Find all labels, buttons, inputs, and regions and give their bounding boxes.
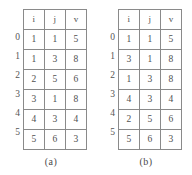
cell-v: 8: [160, 50, 181, 70]
cell-j: 6: [44, 130, 65, 150]
cell-i: 1: [23, 50, 44, 70]
figure-container: 0 1 2 3 4 5 i j v 1 1: [0, 0, 192, 175]
table-row: 4 3 4: [23, 110, 86, 130]
cell-v: 8: [160, 70, 181, 90]
cell-v: 6: [65, 70, 86, 90]
row-index-label: 5: [15, 123, 20, 142]
cell-j: 5: [139, 110, 160, 130]
row-index-label: 4: [15, 104, 20, 123]
table-row: 3 1 8: [118, 50, 181, 70]
row-index-column-a: 0 1 2 3 4 5: [15, 9, 23, 150]
table-row: 1 1 5: [118, 30, 181, 50]
cell-v: 4: [160, 90, 181, 110]
column-header-v: v: [160, 10, 181, 30]
cell-i: 3: [23, 90, 44, 110]
figure-panel-b: 0 1 2 3 4 5 i j v 1 1: [96, 0, 192, 167]
table-row: 2 5 6: [23, 70, 86, 90]
cell-v: 5: [160, 30, 181, 50]
cell-i: 1: [118, 30, 139, 50]
cell-i: 1: [118, 70, 139, 90]
table-row: 1 3 8: [23, 50, 86, 70]
cell-v: 3: [65, 130, 86, 150]
row-index-label: 2: [110, 66, 115, 85]
row-index-column-b: 0 1 2 3 4 5: [110, 9, 118, 150]
cell-i: 5: [23, 130, 44, 150]
row-index-label: 1: [15, 47, 20, 66]
table-header-row: i j v: [118, 10, 181, 30]
cell-v: 3: [160, 130, 181, 150]
cell-j: 1: [44, 30, 65, 50]
table-row: 3 1 8: [23, 90, 86, 110]
cell-i: 4: [23, 110, 44, 130]
coordinate-table-a: i j v 1 1 5 1 3 8: [23, 9, 87, 150]
column-header-i: i: [23, 10, 44, 30]
column-header-j: j: [44, 10, 65, 30]
cell-j: 1: [44, 90, 65, 110]
panel-caption-a: (a): [45, 156, 58, 167]
row-index-label: 0: [15, 28, 20, 47]
table-row: 1 1 5: [23, 30, 86, 50]
row-index-label: 3: [110, 85, 115, 104]
cell-j: 1: [139, 30, 160, 50]
panel-caption-b: (b): [139, 156, 152, 167]
cell-j: 5: [44, 70, 65, 90]
table-wrap-a: 0 1 2 3 4 5 i j v 1 1: [15, 9, 87, 150]
cell-i: 5: [118, 130, 139, 150]
row-index-label: 2: [15, 66, 20, 85]
column-header-i: i: [118, 10, 139, 30]
cell-j: 6: [139, 130, 160, 150]
row-index-label: 3: [15, 85, 20, 104]
column-header-v: v: [65, 10, 86, 30]
cell-v: 8: [65, 90, 86, 110]
row-index-label: 5: [110, 123, 115, 142]
table-row: 4 3 4: [118, 90, 181, 110]
cell-v: 4: [65, 110, 86, 130]
row-index-label: 0: [110, 28, 115, 47]
cell-v: 8: [65, 50, 86, 70]
cell-v: 6: [160, 110, 181, 130]
cell-i: 2: [23, 70, 44, 90]
table-row: 2 5 6: [118, 110, 181, 130]
cell-j: 3: [139, 90, 160, 110]
table-row: 5 6 3: [23, 130, 86, 150]
cell-i: 3: [118, 50, 139, 70]
cell-i: 1: [23, 30, 44, 50]
cell-i: 2: [118, 110, 139, 130]
figure-panel-a: 0 1 2 3 4 5 i j v 1 1: [0, 0, 96, 167]
cell-j: 3: [44, 110, 65, 130]
cell-i: 4: [118, 90, 139, 110]
table-wrap-b: 0 1 2 3 4 5 i j v 1 1: [110, 9, 182, 150]
column-header-j: j: [139, 10, 160, 30]
table-header-row: i j v: [23, 10, 86, 30]
row-index-label: 1: [110, 47, 115, 66]
cell-j: 3: [139, 70, 160, 90]
cell-v: 5: [65, 30, 86, 50]
cell-j: 3: [44, 50, 65, 70]
cell-j: 1: [139, 50, 160, 70]
row-index-label: 4: [110, 104, 115, 123]
table-row: 5 6 3: [118, 130, 181, 150]
coordinate-table-b: i j v 1 1 5 3 1 8: [118, 9, 182, 150]
table-row: 1 3 8: [118, 70, 181, 90]
